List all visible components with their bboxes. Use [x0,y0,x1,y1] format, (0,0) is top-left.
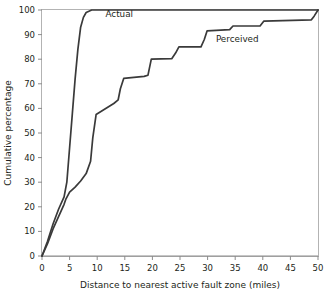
y-tick-label: 40 [24,153,35,163]
x-tick-label: 25 [175,263,186,273]
y-tick-label: 50 [24,128,35,138]
chart-figure: 0102030405060708090100 05101520253035404… [0,0,329,294]
x-tick-label: 0 [39,263,44,273]
x-tick-label: 15 [119,263,130,273]
y-tick-label: 60 [24,103,35,113]
series-label-perceived: Perceived [216,34,259,44]
x-tick-label: 5 [67,263,72,273]
x-tick-label: 45 [285,263,296,273]
x-tick-label: 40 [257,263,268,273]
y-axis-title: Cumulative percentage [3,80,13,186]
chart-canvas: 0102030405060708090100 05101520253035404… [0,0,329,294]
y-tick-label: 100 [19,5,35,15]
y-tick-label: 70 [24,79,35,89]
series-label-actual: Actual [105,9,133,19]
y-tick-label: 10 [24,226,35,236]
y-tick-label: 80 [24,54,35,64]
y-tick-label: 0 [30,251,35,261]
y-tick-label: 20 [24,202,35,212]
chart-background [0,0,329,294]
x-tick-label: 30 [202,263,213,273]
y-tick-label: 30 [24,177,35,187]
x-tick-label: 20 [147,263,158,273]
x-axis-title: Distance to nearest active fault zone (m… [80,280,280,290]
x-tick-label: 35 [230,263,241,273]
y-tick-label: 90 [24,30,35,40]
x-tick-label: 10 [92,263,103,273]
x-tick-label: 50 [313,263,324,273]
